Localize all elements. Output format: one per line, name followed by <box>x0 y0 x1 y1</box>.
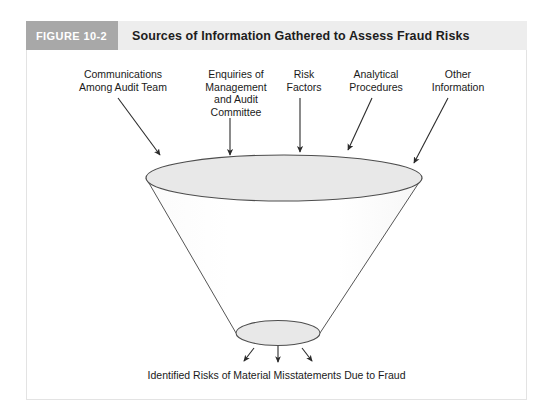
source-label-other-information: Other Information <box>421 68 495 93</box>
source-label-enquiries-of-management-and-audit-committee: Enquiries of Management and Audit Commit… <box>194 68 278 118</box>
outcome-caption: Identified Risks of Material Misstatemen… <box>26 369 527 381</box>
figure-header: FIGURE 10-2 Sources of Information Gathe… <box>26 21 527 50</box>
source-label-analytical-procedures: Analytical Procedures <box>338 68 414 93</box>
source-label-risk-factors: Risk Factors <box>279 68 329 93</box>
source-label-communications-among-audit-team: Communications Among Audit Team <box>60 68 186 93</box>
figure-container: FIGURE 10-2 Sources of Information Gathe… <box>0 0 553 418</box>
figure-title: Sources of Information Gathered to Asses… <box>118 21 527 50</box>
figure-number-tag: FIGURE 10-2 <box>26 21 118 50</box>
